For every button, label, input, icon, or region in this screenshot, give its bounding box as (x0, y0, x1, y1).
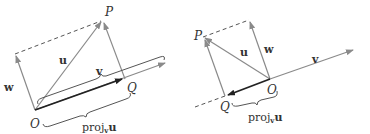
label-p: P (193, 29, 203, 43)
label-u: u (59, 54, 67, 67)
left-diagram: P Q O u v w projvu (3, 5, 165, 134)
label-q: Q (127, 81, 137, 95)
vector-projection-diagram: P Q O u v w projvu P Q O u w v projvu (0, 0, 370, 134)
label-o: O (30, 117, 40, 131)
vector-u (205, 38, 270, 79)
brace-v (38, 56, 165, 104)
label-w: w (3, 81, 14, 94)
label-p: P (104, 5, 114, 19)
label-u: u (240, 46, 248, 59)
label-proj: projvu (248, 111, 282, 125)
label-v: v (95, 65, 103, 78)
label-v: v (311, 53, 319, 66)
label-q: Q (220, 100, 230, 114)
vector-projection (228, 79, 270, 95)
label-o: O (267, 83, 277, 97)
dashed-parallel-line (203, 20, 249, 37)
vector-w (16, 56, 35, 110)
right-diagram: P Q O u w v projvu (193, 20, 353, 125)
label-proj: projvu (82, 121, 116, 134)
dashed-parallel-line (15, 21, 101, 54)
label-w: w (263, 43, 274, 56)
